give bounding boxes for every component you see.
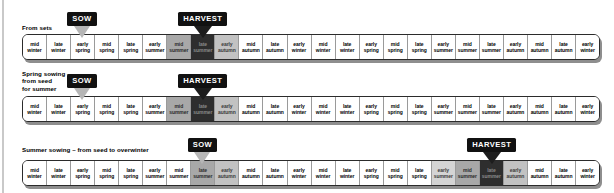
season-cell: earlysummer [143, 161, 167, 185]
harvest-badge-label: HARVEST [178, 12, 227, 26]
season-name: autumn [266, 109, 284, 115]
harvest-badge-label: HARVEST [467, 138, 516, 152]
season-cell: earlyautumn [215, 161, 239, 185]
season-cell: earlyautumn [215, 97, 239, 121]
season-name: winter [316, 173, 330, 179]
season-cell: earlyspring [360, 161, 384, 185]
season-cell: midwinter [312, 35, 336, 59]
marker-arrow-icon [194, 88, 212, 100]
harvest-marker: HARVEST [178, 74, 227, 100]
season-name: summer [193, 47, 212, 53]
season-cell: earlywinter [288, 97, 312, 121]
season-name: autumn [242, 109, 260, 115]
harvest-badge-label: HARVEST [178, 74, 227, 88]
season-cell: midsummer [456, 97, 480, 121]
season-name: spring [99, 47, 114, 53]
season-cell: lateautumn [552, 35, 576, 59]
row-label: From sets [22, 24, 52, 31]
season-cell: earlyautumn [504, 161, 528, 185]
season-cell: lateautumn [263, 97, 287, 121]
season-name: winter [580, 109, 594, 115]
season-cell: lateautumn [552, 97, 576, 121]
season-name: spring [364, 173, 379, 179]
season-name: autumn [218, 109, 236, 115]
season-name: winter [51, 173, 65, 179]
season-cell: earlyautumn [504, 97, 528, 121]
season-cell: earlywinter [576, 97, 599, 121]
season-name: winter [27, 47, 41, 53]
season-cell: earlyspring [360, 35, 384, 59]
season-name: summer [193, 173, 212, 179]
season-name: winter [316, 47, 330, 53]
season-cell: earlyspring [71, 161, 95, 185]
season-bar: midwinterlatewinterearlyspringmidspringl… [22, 34, 600, 60]
season-cell: latespring [119, 97, 143, 121]
season-cell: earlysummer [432, 161, 456, 185]
season-cell: earlywinter [576, 161, 599, 185]
season-cell: latesummer [191, 97, 215, 121]
season-name: winter [27, 173, 41, 179]
season-cell: earlyspring [71, 97, 95, 121]
season-name: autumn [266, 47, 284, 53]
season-name: winter [580, 173, 594, 179]
season-name: spring [123, 109, 138, 115]
season-name: spring [388, 173, 403, 179]
season-name: summer [169, 47, 188, 53]
season-name: spring [388, 47, 403, 53]
season-cell: latespring [408, 161, 432, 185]
season-name: summer [434, 109, 453, 115]
timeline-bar-wrap: midwinterlatewinterearlyspringmidspringl… [22, 160, 600, 186]
season-name: summer [193, 109, 212, 115]
season-name: winter [316, 109, 330, 115]
season-cell: earlysummer [143, 35, 167, 59]
season-cell: midautumn [239, 161, 263, 185]
season-name: winter [340, 109, 354, 115]
season-cell: earlysummer [432, 97, 456, 121]
season-name: winter [340, 47, 354, 53]
sow-marker: SOW [188, 138, 218, 164]
season-name: spring [99, 109, 114, 115]
season-name: summer [482, 109, 501, 115]
season-cell: midspring [384, 161, 408, 185]
season-cell: latewinter [47, 161, 71, 185]
season-cell: latespring [408, 35, 432, 59]
season-cell: earlysummer [432, 35, 456, 59]
season-cell: latewinter [336, 97, 360, 121]
row-label: Summer sowing – from seed to overwinter [22, 146, 149, 153]
season-name: summer [458, 109, 477, 115]
season-cell: midsummer [456, 35, 480, 59]
season-name: winter [51, 47, 65, 53]
season-cell: latewinter [336, 35, 360, 59]
marker-arrow-icon [74, 26, 90, 38]
season-name: summer [145, 109, 164, 115]
marker-arrow-icon [74, 88, 90, 100]
season-cell: latespring [119, 35, 143, 59]
season-name: autumn [555, 173, 573, 179]
season-cell: earlywinter [288, 161, 312, 185]
season-cell: midwinter [23, 35, 47, 59]
season-bar: midwinterlatewinterearlyspringmidspringl… [22, 160, 600, 186]
marker-arrow-icon [194, 152, 210, 164]
season-name: summer [434, 173, 453, 179]
marker-arrow-icon [483, 152, 501, 164]
season-name: autumn [507, 109, 525, 115]
marker-arrow-icon [194, 26, 212, 38]
season-name: spring [99, 173, 114, 179]
season-name: autumn [242, 47, 260, 53]
season-name: summer [482, 173, 501, 179]
season-name: spring [412, 173, 427, 179]
season-name: spring [123, 47, 138, 53]
season-cell: midsummer [167, 161, 191, 185]
season-cell: latespring [119, 161, 143, 185]
season-cell: midautumn [239, 97, 263, 121]
season-name: spring [75, 173, 90, 179]
sow-badge-label: SOW [67, 12, 97, 26]
season-name: summer [458, 173, 477, 179]
season-name: winter [580, 47, 594, 53]
season-name: winter [292, 109, 306, 115]
season-name: autumn [531, 109, 549, 115]
diagram-canvas: From sets midwinterlatewinterearlyspring… [0, 0, 614, 193]
season-name: summer [169, 109, 188, 115]
season-name: winter [51, 109, 65, 115]
season-cell: midautumn [528, 97, 552, 121]
